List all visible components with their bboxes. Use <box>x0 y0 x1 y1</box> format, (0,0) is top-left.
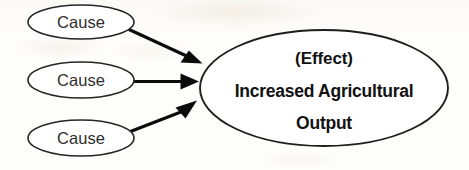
arrow-cause-3-shaft <box>124 110 186 134</box>
arrow-cause-3 <box>124 101 197 135</box>
effect-node-line-3: Output <box>296 113 352 133</box>
diagram-svg-canvas: Cause Cause Cause (Effect) Increased Agr… <box>0 0 469 170</box>
effect-node[interactable]: (Effect) Increased Agricultural Output <box>200 30 448 146</box>
cause-node-1-label: Cause <box>57 13 105 31</box>
cause-node-2[interactable]: Cause <box>28 62 134 98</box>
arrow-cause-2 <box>130 74 199 90</box>
arrow-cause-2-head <box>181 74 200 90</box>
cause-node-3[interactable]: Cause <box>28 120 134 156</box>
arrow-cause-1 <box>128 29 203 64</box>
effect-node-line-1: (Effect) <box>295 49 353 68</box>
arrow-cause-3-head <box>176 101 198 119</box>
arrow-cause-1-head <box>181 51 203 64</box>
cause-node-3-label: Cause <box>57 129 105 147</box>
effect-node-line-2: Increased Agricultural <box>235 81 414 101</box>
cause-node-1[interactable]: Cause <box>28 5 134 39</box>
cause-effect-diagram: Cause Cause Cause (Effect) Increased Agr… <box>0 0 469 170</box>
cause-node-2-label: Cause <box>57 71 105 89</box>
arrow-cause-1-shaft <box>128 29 192 59</box>
